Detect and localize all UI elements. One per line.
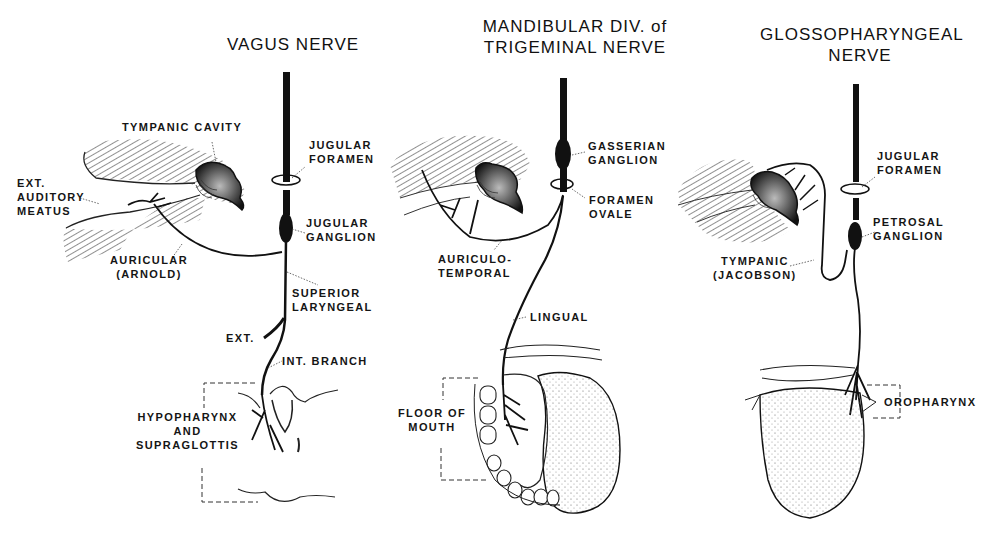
vagus-trunk-upper — [283, 72, 290, 182]
glosso-title-line-2: NERVE — [760, 45, 960, 66]
label-ext-branch: EXT. — [226, 331, 255, 345]
trigeminal-panel — [390, 78, 620, 513]
tongue-shape-3 — [760, 388, 864, 518]
trigeminal-title-line-2: TRIGEMINAL NERVE — [480, 37, 670, 58]
label-jugular-foramen: JUGULAR FORAMEN — [309, 138, 374, 166]
vagus-title-line: VAGUS NERVE — [218, 34, 368, 55]
label-oropharynx: OROPHARYNX — [884, 395, 976, 409]
label-superior-laryngeal: SUPERIOR LARYNGEAL — [292, 286, 373, 314]
label-tympanic-jacobson: TYMPANIC (JACOBSON) — [713, 254, 797, 282]
glosso-trunk — [853, 84, 859, 182]
glossopharyngeal-title: GLOSSOPHARYNGEAL NERVE — [760, 24, 960, 66]
label-foramen-ovale: FORAMEN OVALE — [589, 193, 654, 221]
jugular-foramen-ring-3 — [841, 184, 869, 194]
glosso-title-line-1: GLOSSOPHARYNGEAL — [760, 24, 960, 45]
label-jugular-foramen-3: JUGULAR FORAMEN — [877, 149, 942, 177]
label-auricular-arnold: AURICULAR (ARNOLD) — [110, 253, 188, 281]
glossopharyngeal-panel — [678, 84, 900, 518]
petrosal-ganglion-shape — [848, 222, 862, 250]
gasserian-ganglion-shape — [555, 138, 571, 170]
jugular-ganglion-shape — [279, 213, 293, 243]
label-auriculotemporal: AURICULO- TEMPORAL — [438, 252, 512, 280]
label-gasserian-ganglion: GASSERIAN GANGLION — [588, 139, 666, 167]
label-floor-of-mouth: FLOOR OF MOUTH — [398, 406, 466, 434]
label-hypopharynx-supraglottis: HYPOPHARYNX AND SUPRAGLOTTIS — [136, 410, 239, 452]
trigeminal-title-line-1: MANDIBULAR DIV. of — [480, 16, 670, 37]
label-ext-auditory-meatus: EXT. AUDITORY MEATUS — [17, 176, 85, 218]
label-petrosal-ganglion: PETROSAL GANGLION — [873, 215, 944, 243]
label-tympanic-cavity: TYMPANIC CAVITY — [122, 120, 242, 134]
label-jugular-ganglion: JUGULAR GANGLION — [306, 216, 376, 244]
vagus-title: VAGUS NERVE — [218, 34, 368, 55]
trigeminal-title: MANDIBULAR DIV. of TRIGEMINAL NERVE — [480, 16, 670, 58]
label-int-branch: INT. BRANCH — [282, 354, 368, 368]
label-lingual: LINGUAL — [530, 310, 589, 324]
